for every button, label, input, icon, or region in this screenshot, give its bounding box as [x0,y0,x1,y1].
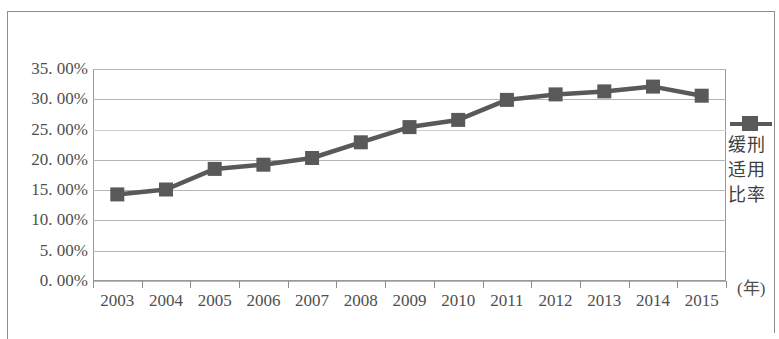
x-axis-tick-mark [629,281,630,288]
legend-marker [728,113,776,133]
y-axis-tick-label: 5. 00% [8,241,88,261]
x-axis-tick-mark [190,281,191,288]
x-axis-tick-mark [288,281,289,288]
x-axis-tick-mark [726,281,727,288]
x-axis-tick-mark [483,281,484,288]
legend-label-line-2: 适用 [728,158,779,183]
x-axis-tick-mark [239,281,240,288]
x-axis-tick-mark [336,281,337,288]
legend-label-line-3: 比率 [728,183,779,208]
x-axis: 2003200420052006200720082009201020112012… [0,291,779,317]
chart-legend: 缓刑 适用 比率 [728,113,779,208]
y-axis: 0. 00%5. 00%10. 00%15. 00%20. 00%25. 00%… [0,0,779,339]
y-axis-tick-label: 0. 00% [8,271,88,291]
x-axis-tick-mark [93,281,94,288]
y-axis-tick-label: 20. 00% [8,150,88,170]
legend-square-marker-icon [742,116,758,131]
y-axis-tick-label: 30. 00% [8,89,88,109]
legend-label-line-1: 缓刑 [728,133,779,158]
line-chart: 0. 00%5. 00%10. 00%15. 00%20. 00%25. 00%… [0,0,779,339]
y-axis-tick-label: 10. 00% [8,210,88,230]
y-axis-tick-label: 35. 00% [8,59,88,79]
y-axis-tick-label: 25. 00% [8,120,88,140]
x-axis-unit-label: (年) [737,274,765,299]
x-axis-tick-mark [434,281,435,288]
x-axis-tick-label: 2015 [672,291,732,311]
x-axis-tick-mark [531,281,532,288]
y-axis-tick-label: 15. 00% [8,180,88,200]
x-axis-tick-mark [580,281,581,288]
x-axis-tick-mark [677,281,678,288]
x-axis-tick-mark [385,281,386,288]
x-axis-tick-mark [142,281,143,288]
